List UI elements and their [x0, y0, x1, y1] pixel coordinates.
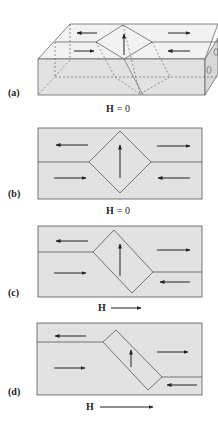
- panel-label-a: (a): [8, 87, 20, 99]
- panel-label-c: (c): [8, 287, 19, 299]
- panel-d: (d) H: [8, 323, 202, 412]
- panel-label-b: (b): [8, 188, 20, 200]
- panel-a: (a) H= 0: [8, 24, 218, 114]
- field-label-b: H= 0: [106, 205, 130, 216]
- domain-diagram: (a) H= 0 (b) H= 0 (c) H: [0, 0, 218, 424]
- field-label-a: H= 0: [106, 103, 130, 114]
- svg-text:H: H: [98, 302, 106, 313]
- panel-c: (c) H: [8, 226, 202, 313]
- field-label-c: H: [98, 302, 141, 313]
- panel-b: (b) H= 0: [8, 128, 202, 216]
- panel-label-d: (d): [8, 386, 20, 398]
- svg-text:H: H: [86, 401, 94, 412]
- field-label-d: H: [86, 401, 153, 412]
